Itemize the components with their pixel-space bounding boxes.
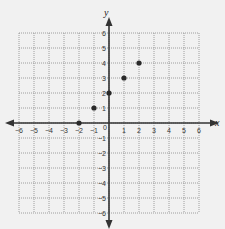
data-point — [76, 120, 81, 125]
x-tick-label: 6 — [197, 127, 201, 134]
data-point — [136, 60, 141, 65]
arrow-left-icon — [5, 120, 14, 127]
arrow-down-icon — [106, 220, 113, 229]
x-tick-label: −2 — [75, 127, 83, 134]
x-tick-label: 3 — [152, 127, 156, 134]
x-tick-label: −6 — [15, 127, 23, 134]
x-tick-label: −1 — [90, 127, 98, 134]
y-tick-label: −2 — [98, 150, 106, 157]
y-tick-label: 4 — [102, 60, 106, 67]
x-tick-label: −3 — [60, 127, 68, 134]
y-tick-label: −5 — [98, 195, 106, 202]
x-tick-label: −4 — [45, 127, 53, 134]
coordinate-plane: −6−5−4−3−2−1123456−6−5−4−3−2−1123456 x y… — [0, 0, 225, 229]
x-axis-label: x — [214, 117, 220, 128]
y-tick-label: −3 — [98, 165, 106, 172]
data-point — [121, 75, 126, 80]
y-tick-label: 2 — [102, 90, 106, 97]
arrow-up-icon — [106, 17, 113, 26]
origin-label: 0 — [103, 124, 107, 131]
x-tick-label: 2 — [137, 127, 141, 134]
y-tick-label: −4 — [98, 180, 106, 187]
y-tick-label: 6 — [102, 30, 106, 37]
y-tick-label: 1 — [102, 105, 106, 112]
x-tick-label: 4 — [167, 127, 171, 134]
x-tick-label: 5 — [182, 127, 186, 134]
y-axis-label: y — [103, 7, 109, 18]
data-point — [106, 90, 111, 95]
x-tick-label: −5 — [30, 127, 38, 134]
axes — [5, 17, 219, 229]
data-point — [91, 105, 96, 110]
x-tick-label: 1 — [122, 127, 126, 134]
y-tick-label: 3 — [102, 75, 106, 82]
y-tick-label: 5 — [102, 45, 106, 52]
y-tick-label: −1 — [98, 135, 106, 142]
y-tick-label: −6 — [98, 210, 106, 217]
